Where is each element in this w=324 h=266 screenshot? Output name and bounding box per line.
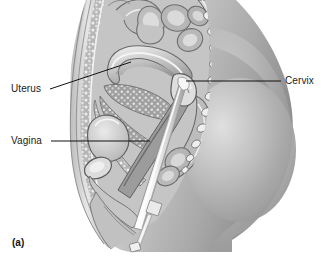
label-vagina: Vagina — [11, 136, 42, 146]
label-cervix: Cervix — [285, 76, 314, 86]
figure-panel: Uterus Vagina Cervix (a) — [0, 0, 324, 266]
bladder — [88, 115, 129, 161]
label-uterus: Uterus — [11, 84, 41, 94]
panel-label: (a) — [12, 237, 24, 248]
anatomy-illustration — [0, 0, 324, 266]
